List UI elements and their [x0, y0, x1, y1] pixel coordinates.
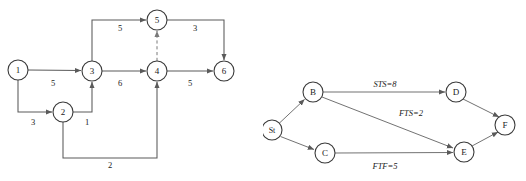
node-3-label: 3: [90, 66, 95, 76]
node-st-label: St: [269, 126, 276, 135]
edge-st-to-c: [281, 137, 315, 150]
edge-1-to-3: [28, 70, 81, 71]
node-f-label: F: [502, 120, 507, 130]
activity-on-arrow-svg: 1 2 3 4 5 6 5 3 1 6 5 2 5 3: [0, 0, 263, 181]
edge-weight-2-3: 1: [85, 117, 89, 127]
edge-label-c-e: FTF=5: [371, 161, 397, 171]
node-1-label: 1: [16, 65, 21, 75]
edge-b-to-e: [322, 97, 453, 148]
edge-label-b-d: STS=8: [373, 79, 397, 89]
node-e-label: E: [461, 147, 467, 157]
node-4-label: 4: [155, 66, 160, 76]
edge-st-to-b: [280, 100, 305, 124]
edge-weight-3-4: 6: [118, 78, 122, 88]
node-5-label: 5: [155, 15, 160, 25]
edge-weight-2-4: 2: [108, 160, 112, 170]
edge-weight-3-5: 5: [118, 23, 122, 33]
edge-weight-5-6: 3: [193, 23, 197, 33]
node-6-label: 6: [222, 66, 227, 76]
edge-2-to-4: [63, 82, 157, 158]
node-d-label: D: [453, 87, 460, 97]
precedence-diagram-svg: St B C D E F STS=8 FTS=2 FTF=5: [263, 0, 526, 181]
precedence-diagram-network-figure: St B C D E F STS=8 FTS=2 FTF=5: [263, 0, 526, 181]
edge-e-to-f: [472, 132, 498, 146]
edge-2-to-3: [73, 82, 92, 112]
edge-d-to-f: [463, 99, 499, 117]
node-c-label: C: [322, 148, 328, 158]
edge-c-to-e: [335, 153, 453, 154]
edge-label-b-e: FTS=2: [398, 108, 424, 118]
activity-on-arrow-network-figure: 1 2 3 4 5 6 5 3 1 6 5 2 5 3: [0, 0, 263, 181]
edge-1-to-2: [18, 80, 52, 112]
edge-weight-1-3: 5: [51, 78, 55, 88]
edge-weight-4-6: 5: [188, 78, 192, 88]
diagram-page: 1 2 3 4 5 6 5 3 1 6 5 2 5 3: [0, 0, 526, 181]
node-b-label: B: [310, 87, 316, 97]
node-2-label: 2: [61, 107, 66, 117]
edge-weight-1-2: 3: [31, 117, 35, 127]
